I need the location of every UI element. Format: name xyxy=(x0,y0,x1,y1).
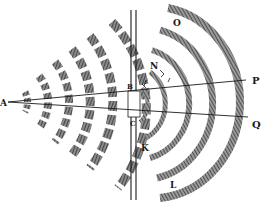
diffracted-wavefronts xyxy=(140,8,240,198)
wavefront-4 xyxy=(72,49,90,155)
label-source-A: A xyxy=(0,98,8,108)
label-aperture-C: C xyxy=(130,119,136,128)
label-Q: Q xyxy=(252,119,261,130)
label-P: P xyxy=(252,75,260,86)
label-N: N xyxy=(150,61,158,71)
label-O: O xyxy=(173,18,181,28)
label-K: K xyxy=(141,143,150,153)
wavefront-3 xyxy=(55,62,69,142)
aperture xyxy=(128,91,140,117)
label-aperture-B: B xyxy=(127,82,133,91)
wavefront-1 xyxy=(25,92,28,112)
wavefront-2 xyxy=(39,76,48,128)
diffraction-diagram: A B C N O K L P Q xyxy=(0,0,268,205)
label-L: L xyxy=(170,180,177,190)
